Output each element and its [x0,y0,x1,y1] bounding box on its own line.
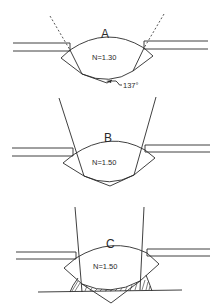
lens-diagram-figure: A N=1.30 137° B N=1.50 [0,0,221,307]
lens-right-facet [140,253,159,281]
panel-b-label: B [104,131,112,145]
panel-c-index-label: N=1.50 [93,262,117,271]
panel-a: A N=1.30 137° [13,14,208,90]
panel-a-label: A [101,27,109,41]
left-meniscus [70,278,78,292]
apex-edge [84,175,134,186]
right-incident-ray-dashed [144,14,164,48]
panel-a-index-label: N=1.30 [92,53,116,62]
right-inner-ray [133,48,144,71]
panel-a-angle-label: 137° [123,81,139,90]
right-incident-ray [134,97,156,175]
lens-right-facet [133,48,153,71]
lens-bottom-surface [82,71,133,79]
left-inner-ray [70,50,82,74]
lens-bottom-surface [82,281,140,290]
angle-leader-line [112,81,122,86]
right-meniscus [146,275,152,291]
panel-b-index-label: N=1.50 [92,158,116,167]
left-incident-ray [59,98,84,176]
panel-c: C N=1.50 [16,207,210,303]
left-incident-ray-dashed [50,16,70,50]
panel-c-label: C [106,237,115,251]
panel-b: B N=1.50 [12,97,210,186]
apex-edge [82,281,140,303]
